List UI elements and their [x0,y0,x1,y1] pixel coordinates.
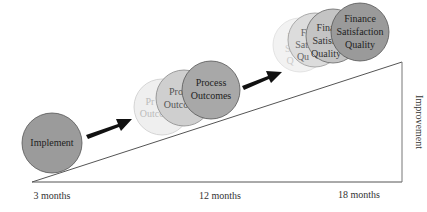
implement-label: Implement [30,137,74,148]
stage-implement: Implement [22,113,82,173]
improvement-timeline-diagram: Implement Pr Outco Pro Outco Process Out… [0,0,427,212]
process-label-line1: Process [196,77,227,88]
arrow-right-icon [86,119,132,139]
ghost-text: Pro [169,86,183,97]
finance-label-line2: Satisfaction [336,26,383,37]
x-label-3-months: 3 months [34,190,71,201]
y-label-improvement: Improvement [414,95,425,149]
stage-finance-satisfaction-quality: F Sa Q Fi Sati Qu Finan Satisfa Quality … [273,3,389,72]
x-label-12-months: 12 months [199,190,241,201]
ghost-text: Qu [297,51,309,62]
finance-label-line3: Quality [345,39,375,50]
process-label-line2: Outcomes [191,90,232,101]
stage-process-outcomes: Pr Outco Pro Outco Process Outcomes [134,61,240,135]
arrow-right-icon [242,71,282,90]
ghost-text: Pr [146,96,156,107]
finance-label-line1: Finance [344,13,376,24]
ghost-text: Q [286,55,294,66]
x-label-18-months: 18 months [338,189,380,200]
